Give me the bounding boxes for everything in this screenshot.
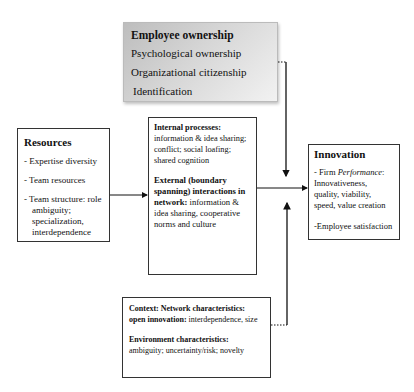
resource-item-first: - Team structure: role	[24, 194, 101, 204]
network-label: Context: Network characteristics:	[129, 304, 245, 313]
employee-ownership-box: Employee ownership Psychological ownersh…	[123, 22, 278, 102]
innovation-title: Innovation	[314, 149, 394, 160]
resources-title: Resources	[24, 136, 103, 148]
open-innovation-text: interdependence, size	[187, 315, 258, 324]
internal-processes: Internal processes: information & idea s…	[154, 122, 251, 166]
context-box: Context: Network characteristics: open i…	[122, 297, 271, 378]
processes-box: Internal processes: information & idea s…	[148, 117, 257, 275]
ownership-item: Psychological ownership	[131, 47, 277, 59]
environment-label: Environment characteristics:	[129, 335, 229, 344]
open-innovation-label: open innovation:	[129, 315, 187, 324]
resource-item-rest: ambiguity; specialization, interdependen…	[24, 205, 103, 238]
ownership-item: Organizational citizenship	[131, 66, 277, 78]
internal-processes-label: Internal processes:	[154, 123, 221, 132]
environment-characteristics: Environment characteristics: ambiguity; …	[129, 334, 264, 356]
innovation-box: Innovation - Firm Performance: Innovativ…	[308, 144, 400, 240]
firm-performance-text: Innovativeness, quality, viability, spee…	[314, 178, 386, 210]
firm-prefix: - Firm	[314, 167, 338, 177]
environment-text: ambiguity; uncertainty/risk; novelty	[129, 346, 244, 355]
internal-processes-text: information & idea sharing; conflict; so…	[154, 134, 246, 165]
external-interactions: External (boundary spanning) interaction…	[154, 175, 251, 230]
resources-box: Resources - Expertise diversity - Team r…	[17, 128, 110, 242]
resource-item: - Team resources	[24, 175, 103, 186]
resource-item: - Team structure: role ambiguity; specia…	[24, 194, 103, 238]
firm-performance: - Firm Performance: Innovativeness, qual…	[314, 167, 394, 211]
employee-satisfaction: -Employee satisfaction	[314, 221, 394, 232]
ownership-item: Identification	[131, 85, 277, 97]
firm-suffix: :	[382, 167, 384, 177]
firm-performance-italic: Performance	[338, 167, 382, 177]
resource-item: - Expertise diversity	[24, 156, 103, 167]
network-characteristics: Context: Network characteristics: open i…	[129, 303, 264, 325]
employee-ownership-title: Employee ownership	[131, 29, 277, 41]
